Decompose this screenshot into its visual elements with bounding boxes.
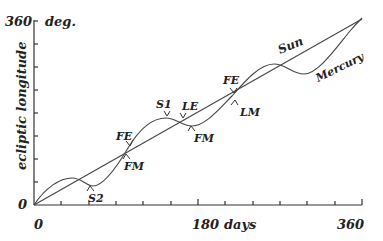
fe1-label: FE bbox=[115, 130, 133, 143]
fm2-marker-icon bbox=[188, 126, 195, 131]
le-label: LE bbox=[181, 100, 199, 113]
s2-marker-icon bbox=[87, 186, 94, 191]
x-unit-label: days bbox=[224, 217, 257, 232]
y-zero-label: 0 bbox=[18, 197, 27, 212]
le-marker-icon bbox=[180, 113, 186, 118]
lm-marker-icon bbox=[231, 100, 238, 105]
y-top-label: 360 bbox=[5, 14, 32, 29]
y-unit-label: deg. bbox=[45, 14, 76, 29]
x-zero-label: 0 bbox=[34, 217, 43, 232]
mercury-label: Mercury bbox=[313, 50, 368, 86]
lm-label: LM bbox=[239, 106, 261, 119]
s1-label: S1 bbox=[156, 98, 172, 111]
s2-label: S2 bbox=[88, 192, 104, 205]
chart: 360 deg. 0 0 180 days 360 ecliptic longi… bbox=[0, 0, 383, 241]
x-end-label: 360 bbox=[337, 217, 364, 232]
s1-marker-icon bbox=[164, 111, 170, 116]
fm1-label: FM bbox=[123, 160, 145, 173]
fm2-label: FM bbox=[193, 132, 215, 145]
y-axis-title: ecliptic longitude bbox=[14, 42, 29, 170]
fe2-label: FE bbox=[222, 74, 240, 87]
x-mid-label: 180 bbox=[192, 217, 219, 232]
